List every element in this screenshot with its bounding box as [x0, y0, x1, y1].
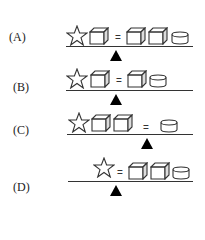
- cube-icon: [127, 70, 147, 88]
- cube-icon: [113, 114, 133, 132]
- triangle-fulcrum-icon: [110, 94, 122, 105]
- cube-icon: [148, 27, 168, 45]
- star-icon: [93, 157, 115, 178]
- option-label: (D): [13, 181, 30, 193]
- option-label: (B): [13, 81, 29, 93]
- cube-icon: [150, 162, 170, 180]
- option-label: (C): [13, 124, 29, 136]
- equals-sign: =: [143, 123, 149, 133]
- cube-icon: [126, 27, 146, 45]
- cube-icon: [128, 162, 148, 180]
- balance-beam: [66, 46, 193, 47]
- equals-sign: =: [115, 33, 121, 43]
- equals-sign: =: [117, 168, 123, 178]
- cylinder-icon: [172, 166, 190, 180]
- cylinder-icon: [160, 119, 178, 133]
- balance-beam: [66, 90, 193, 91]
- triangle-fulcrum-icon: [141, 138, 153, 149]
- balance-beam: [67, 134, 193, 135]
- star-icon: [68, 112, 90, 133]
- cylinder-icon: [171, 31, 189, 45]
- option-label: (A): [9, 31, 26, 43]
- triangle-fulcrum-icon: [110, 185, 122, 196]
- star-icon: [66, 68, 88, 89]
- triangle-fulcrum-icon: [110, 50, 122, 61]
- cube-icon: [90, 70, 110, 88]
- cylinder-icon: [149, 74, 167, 88]
- equals-sign: =: [116, 76, 122, 86]
- balance-beam: [68, 181, 193, 182]
- cube-icon: [89, 27, 109, 45]
- star-icon: [66, 25, 88, 46]
- cube-icon: [91, 114, 111, 132]
